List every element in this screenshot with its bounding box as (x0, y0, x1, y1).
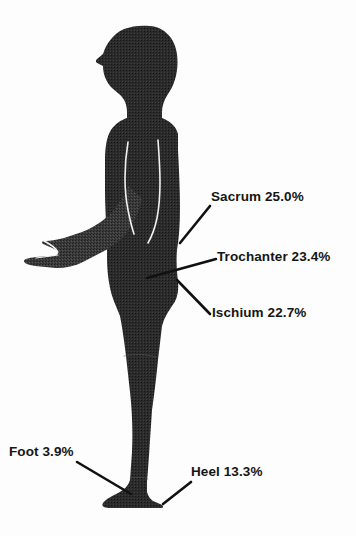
annotation-label-heel: Heel 13.3% (191, 464, 263, 479)
annotation-label-trochanter: Trochanter 23.4% (217, 249, 330, 264)
annotation-label-foot: Foot 3.9% (9, 444, 74, 459)
annotation-label-ischium: Ischium 22.7% (212, 305, 306, 320)
annotation-label-sacrum: Sacrum 25.0% (211, 189, 304, 204)
body-pressure-diagram: Sacrum 25.0% Trochanter 23.4% Ischium 22… (0, 0, 356, 536)
